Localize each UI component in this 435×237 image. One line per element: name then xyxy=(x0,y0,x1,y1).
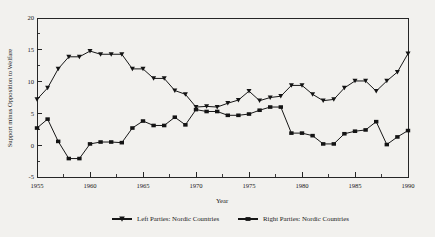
data-point-marker xyxy=(247,112,251,116)
y-axis-tick-labels: 20151050-5 xyxy=(27,14,34,180)
plot-frame xyxy=(37,18,408,177)
data-point-marker xyxy=(374,89,379,94)
data-point-marker xyxy=(300,131,304,135)
plot-border xyxy=(37,18,408,177)
x-axis-title: Year xyxy=(216,197,229,204)
data-point-marker xyxy=(67,157,71,161)
data-point-marker xyxy=(204,110,208,114)
data-point-marker xyxy=(353,129,357,133)
data-point-marker xyxy=(77,157,81,161)
data-point-marker xyxy=(141,119,145,123)
y-axis-title: Support minus Opposition to Welfare xyxy=(6,49,13,148)
legend-marker-square xyxy=(246,217,251,221)
data-point-marker xyxy=(342,132,346,136)
data-point-marker xyxy=(35,97,40,102)
data-point-marker xyxy=(406,129,410,133)
x-tick-label: 1960 xyxy=(83,182,97,189)
data-point-marker xyxy=(109,140,113,144)
data-point-marker xyxy=(183,123,187,127)
data-point-marker xyxy=(45,117,49,121)
data-point-marker xyxy=(35,126,39,130)
data-point-marker xyxy=(363,128,367,132)
data-point-marker xyxy=(257,108,261,112)
series-left-parties xyxy=(35,49,411,109)
data-point-marker xyxy=(162,124,166,128)
x-tick-label: 1970 xyxy=(189,182,203,189)
x-tick-label: 1985 xyxy=(348,182,362,189)
data-point-marker xyxy=(215,110,219,114)
data-point-marker xyxy=(236,114,240,118)
data-point-marker xyxy=(310,92,315,97)
y-tick-label: -5 xyxy=(29,173,35,180)
data-point-marker xyxy=(56,140,60,144)
data-point-marker xyxy=(194,108,198,112)
x-tick-label: 1955 xyxy=(30,182,44,189)
x-tick-label: 1975 xyxy=(242,182,256,189)
data-point-marker xyxy=(395,135,399,139)
y-tick-label: 0 xyxy=(31,142,35,149)
data-point-marker xyxy=(130,126,134,130)
data-point-marker xyxy=(173,115,177,119)
series-right-parties xyxy=(35,105,410,160)
y-tick-label: 20 xyxy=(27,14,34,21)
data-point-marker xyxy=(56,67,61,72)
data-point-marker xyxy=(406,51,411,56)
data-point-marker xyxy=(226,114,230,118)
x-tick-label: 1990 xyxy=(401,182,415,189)
chart-legend: Left Parties: Nordic CountriesRight Part… xyxy=(112,215,349,222)
x-tick-label: 1980 xyxy=(295,182,309,189)
legend-item-right-parties[interactable]: Right Parties: Nordic Countries xyxy=(238,215,349,222)
y-tick-label: 15 xyxy=(27,46,34,53)
legend-label: Left Parties: Nordic Countries xyxy=(137,215,219,222)
data-point-marker xyxy=(289,131,293,135)
y-tick-label: 5 xyxy=(31,110,35,117)
data-point-marker xyxy=(151,124,155,128)
data-point-marker xyxy=(120,141,124,145)
line-chart: 20151050-5 19551960196519701975198019851… xyxy=(0,0,435,237)
x-axis-ticks xyxy=(37,172,408,177)
x-axis-tick-labels: 19551960196519701975198019851990 xyxy=(30,182,415,189)
data-point-marker xyxy=(374,120,378,124)
x-tick-label: 1965 xyxy=(136,182,150,189)
data-point-marker xyxy=(310,134,314,138)
data-point-marker xyxy=(257,99,262,104)
series-line xyxy=(37,51,408,107)
y-tick-label: 10 xyxy=(27,78,34,85)
legend-item-left-parties[interactable]: Left Parties: Nordic Countries xyxy=(112,215,219,222)
data-point-marker xyxy=(279,105,283,109)
data-point-marker xyxy=(88,142,92,146)
data-point-marker xyxy=(321,142,325,146)
data-point-marker xyxy=(332,142,336,146)
data-point-marker xyxy=(268,105,272,109)
series-line xyxy=(37,107,408,159)
data-point-marker xyxy=(385,143,389,147)
legend-label: Right Parties: Nordic Countries xyxy=(263,215,349,222)
data-point-marker xyxy=(98,140,102,144)
data-series-layer xyxy=(35,49,411,160)
chart-container: 20151050-5 19551960196519701975198019851… xyxy=(0,0,435,237)
